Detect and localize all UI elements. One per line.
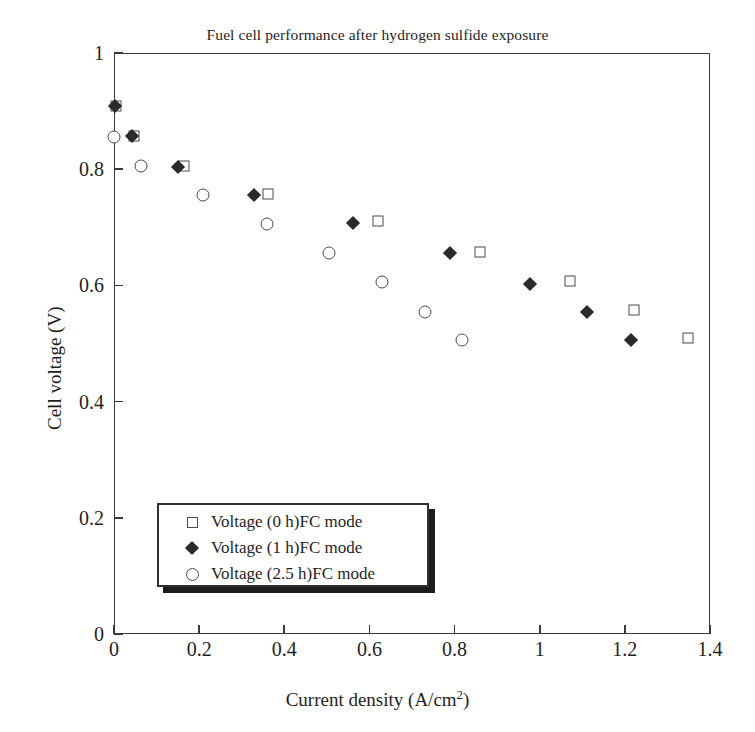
legend-item-label: Voltage (2.5 h)FC mode xyxy=(211,564,375,584)
x-tick-label: 0.2 xyxy=(187,638,212,661)
x-tick xyxy=(198,625,200,634)
x-axis-title-base: Current density (A/cm xyxy=(286,689,457,710)
legend-item[interactable]: Voltage (0 h)FC mode xyxy=(179,509,427,535)
filled-diamond-icon xyxy=(179,538,205,558)
open-circle-icon xyxy=(179,564,205,584)
y-tick-label: 0.8 xyxy=(60,158,104,181)
y-tick-label: 0.2 xyxy=(60,506,104,529)
data-point-series-2 xyxy=(197,189,210,202)
legend-item-label: Voltage (0 h)FC mode xyxy=(211,512,362,532)
data-point-series-0 xyxy=(263,189,274,200)
y-tick xyxy=(114,517,123,519)
y-tick xyxy=(114,285,123,287)
x-tick xyxy=(454,625,456,634)
y-tick-label: 1 xyxy=(60,42,104,65)
data-point-series-2 xyxy=(134,160,147,173)
x-tick xyxy=(709,625,711,634)
data-point-series-2 xyxy=(376,276,389,289)
x-axis-title: Current density (A/cm2) xyxy=(0,687,755,711)
x-tick xyxy=(539,625,541,634)
y-tick-label: 0 xyxy=(60,623,104,646)
data-point-series-2 xyxy=(261,217,274,230)
x-tick xyxy=(369,625,371,634)
legend-item[interactable]: Voltage (1 h)FC mode xyxy=(179,535,427,561)
y-tick xyxy=(114,401,123,403)
open-square-icon xyxy=(179,512,205,532)
y-tick xyxy=(114,633,123,635)
x-tick-label: 0 xyxy=(109,638,119,661)
x-tick-label: 1.2 xyxy=(612,638,637,661)
x-tick-label: 1.4 xyxy=(698,638,723,661)
data-point-series-2 xyxy=(456,334,469,347)
y-tick-label: 0.4 xyxy=(60,390,104,413)
legend-item-label: Voltage (1 h)FC mode xyxy=(211,538,362,558)
x-tick xyxy=(283,625,285,634)
legend-rows: Voltage (0 h)FC modeVoltage (1 h)FC mode… xyxy=(159,505,427,587)
data-point-series-0 xyxy=(629,304,640,315)
chart-title: Fuel cell performance after hydrogen sul… xyxy=(0,26,755,44)
data-point-series-0 xyxy=(475,247,486,258)
x-axis-title-tail: ) xyxy=(463,689,469,710)
x-tick-label: 0.4 xyxy=(272,638,297,661)
legend-item[interactable]: Voltage (2.5 h)FC mode xyxy=(179,561,427,587)
x-tick-label: 1 xyxy=(535,638,545,661)
y-tick xyxy=(114,52,123,54)
x-tick-label: 0.6 xyxy=(357,638,382,661)
data-point-series-2 xyxy=(108,131,121,144)
data-point-series-0 xyxy=(682,332,693,343)
data-point-series-2 xyxy=(322,247,335,260)
x-tick-label: 0.8 xyxy=(442,638,467,661)
y-tick xyxy=(114,168,123,170)
chart-figure: Fuel cell performance after hydrogen sul… xyxy=(0,0,755,732)
x-tick xyxy=(624,625,626,634)
y-tick-label: 0.6 xyxy=(60,274,104,297)
data-point-series-0 xyxy=(372,216,383,227)
data-point-series-2 xyxy=(418,305,431,318)
data-point-series-0 xyxy=(564,275,575,286)
legend: Voltage (0 h)FC modeVoltage (1 h)FC mode… xyxy=(157,503,429,587)
y-axis-title: Cell voltage (V) xyxy=(44,307,66,430)
